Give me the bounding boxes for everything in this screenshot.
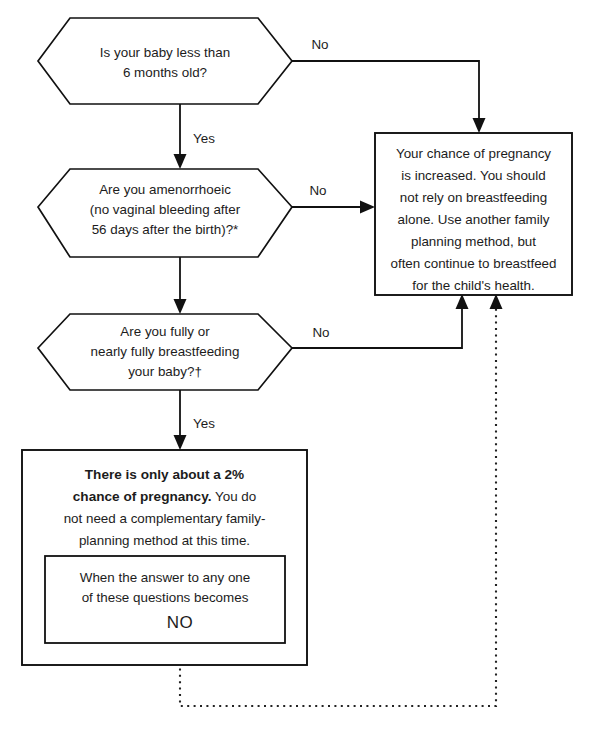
result-line-4: planning method at this time. bbox=[79, 533, 250, 548]
decision-node-breastfeeding[interactable]: Are you fully or nearly fully breastfeed… bbox=[38, 314, 292, 390]
arrow-head-icon bbox=[174, 299, 187, 314]
edge-label-yes-1: Yes bbox=[193, 131, 215, 146]
result-line-3: not need a complementary family- bbox=[64, 511, 266, 526]
result-line-2: chance of pregnancy. You do bbox=[73, 489, 256, 504]
outcome-line-4: alone. Use another family bbox=[398, 212, 550, 227]
result-bold-line-2: chance of pregnancy. bbox=[73, 489, 212, 504]
outcome-line-3: not rely on breastfeeding bbox=[400, 190, 547, 205]
result-rest-line-2: You do bbox=[212, 489, 257, 504]
edge-label-no-3: No bbox=[312, 325, 329, 340]
q3-line-3: your baby?† bbox=[128, 364, 202, 379]
edge-q2-to-q3 bbox=[174, 257, 187, 314]
outcome-line-5: planning method, but bbox=[411, 234, 536, 249]
outcome-line-7: for the child's health. bbox=[412, 278, 534, 293]
edge-q2-to-outcome bbox=[292, 201, 375, 214]
outcome-line-2: is increased. You should bbox=[401, 168, 545, 183]
edge-q1-to-outcome bbox=[292, 61, 486, 133]
result-box-low-risk[interactable]: There is only about a 2% chance of pregn… bbox=[22, 450, 307, 665]
arrow-head-icon bbox=[360, 201, 375, 214]
arrow-head-icon bbox=[473, 118, 486, 133]
q2-line-2: (no vaginal bleeding after bbox=[90, 202, 241, 217]
flowchart-svg: Yes Yes Yes No No No Is your baby less t… bbox=[0, 0, 595, 731]
decision-node-amenorrhoeic[interactable]: Are you amenorrhoeic (no vaginal bleedin… bbox=[38, 169, 292, 257]
edge-label-no-1: No bbox=[311, 37, 328, 52]
q1-line-1: Is your baby less than bbox=[100, 45, 230, 60]
q3-line-1: Are you fully or bbox=[120, 324, 210, 339]
decision-node-baby-age[interactable]: Is your baby less than 6 months old? bbox=[38, 18, 292, 104]
edge-label-no-2: No bbox=[309, 183, 326, 198]
edge-q3-to-result bbox=[174, 390, 187, 450]
q2-line-1: Are you amenorrhoeic bbox=[99, 182, 231, 197]
arrow-head-icon bbox=[174, 154, 187, 169]
arrow-head-icon bbox=[174, 435, 187, 450]
outcome-box-increased-risk[interactable]: Your chance of pregnancy is increased. Y… bbox=[375, 133, 572, 295]
arrow-head-icon bbox=[490, 294, 503, 309]
flowchart-container: Yes Yes Yes No No No Is your baby less t… bbox=[0, 0, 595, 731]
outcome-line-1: Your chance of pregnancy bbox=[396, 146, 551, 161]
q2-line-3: 56 days after the birth)?* bbox=[92, 222, 239, 237]
inner-line-2: of these questions becomes bbox=[82, 590, 249, 605]
inner-line-1: When the answer to any one bbox=[80, 570, 250, 585]
arrow-head-icon bbox=[456, 294, 469, 309]
outcome-line-6: often continue to breastfeed bbox=[390, 256, 556, 271]
inner-no-emphasis: NO bbox=[167, 613, 194, 632]
edge-label-yes-3: Yes bbox=[193, 416, 215, 431]
q1-line-2: 6 months old? bbox=[123, 65, 207, 80]
result-bold-line-1: There is only about a 2% bbox=[85, 467, 244, 482]
edge-q1-to-q2 bbox=[174, 104, 187, 169]
q3-line-2: nearly fully breastfeeding bbox=[91, 344, 240, 359]
inner-box-answer-no[interactable]: When the answer to any one of these ques… bbox=[45, 556, 285, 643]
